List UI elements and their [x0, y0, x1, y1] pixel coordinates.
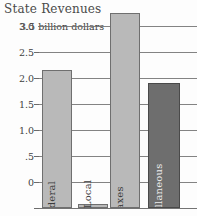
bar-label-taxes: Taxes — [114, 186, 125, 208]
tick-mark-0-5 — [34, 182, 39, 183]
tick-mark-1-0 — [34, 156, 39, 157]
y-tick-1-0: 1.0 — [19, 125, 34, 136]
tick-mark-2-5 — [34, 78, 39, 79]
y-tick-0-5: .5 — [25, 151, 34, 162]
y-tick-2-5: 2.5 — [19, 47, 34, 58]
bar-label-miscellaneous: Miscellaneous — [153, 164, 164, 209]
bar-federal[interactable]: Federal — [42, 70, 72, 208]
bar-label-local: Local — [82, 180, 93, 208]
gridline-0 — [38, 208, 197, 209]
y-axis-tick-labels: 3.0 2.5 2.0 1.5 1.0 .5 0 — [0, 26, 34, 208]
plot-area: Federal Local Taxes Miscellaneous — [38, 26, 197, 208]
y-tick-1-5: 1.5 — [19, 99, 34, 110]
bar-taxes[interactable]: Taxes — [110, 13, 140, 208]
y-tick-2-0: 2.0 — [19, 73, 34, 84]
bar-label-federal: Federal — [46, 181, 57, 208]
tick-mark-3-0 — [34, 52, 39, 53]
tick-mark-0 — [34, 208, 39, 209]
tick-mark-1-5 — [34, 130, 39, 131]
tick-mark-2-0 — [34, 104, 39, 105]
bar-chart: State Revenues 3.0 2.5 2.0 1.5 1.0 .5 0 … — [0, 0, 197, 216]
chart-title: State Revenues — [4, 2, 101, 16]
bar-miscellaneous[interactable]: Miscellaneous — [148, 83, 180, 208]
